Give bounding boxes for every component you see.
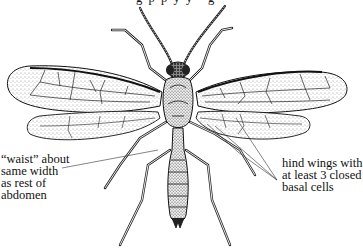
left-forewing — [7, 66, 162, 113]
right-hindwing — [196, 111, 310, 139]
head — [166, 62, 190, 78]
right-forewing — [196, 72, 347, 113]
annotation-hind-wings: hind wings with at least 3 closed basal … — [282, 157, 363, 193]
thorax — [163, 77, 193, 128]
abdomen — [168, 128, 188, 228]
annotation-waist: “waist” about same width as rest of abdo… — [1, 153, 69, 201]
antennae — [140, 6, 225, 64]
left-hindwing — [27, 111, 160, 140]
leader-waist — [62, 150, 158, 168]
